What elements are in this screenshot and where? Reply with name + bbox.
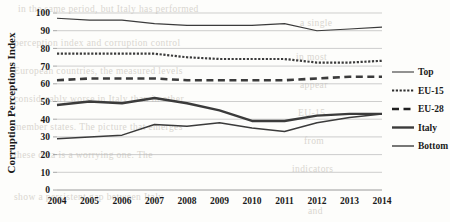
legend-item-eu-28[interactable]: EU-28 [392, 104, 444, 114]
y-tick-label: 100 [36, 8, 51, 18]
y-tick-label: 50 [41, 97, 51, 107]
x-axis-tick-labels: 2004200520062007200820092010201120122013… [48, 196, 392, 206]
legend-label: Italy [418, 123, 437, 133]
y-tick-label: 30 [41, 132, 51, 142]
x-tick-label: 2013 [340, 196, 359, 206]
y-axis-tick-labels: 0102030405060708090100 [36, 8, 51, 195]
legend-item-top[interactable]: Top [392, 67, 434, 77]
y-tick-label: 80 [41, 44, 51, 54]
x-tick-label: 2007 [145, 196, 164, 206]
y-tick-label: 0 [45, 185, 50, 195]
series-line-eu-15 [57, 54, 382, 63]
legend-label: EU-15 [418, 86, 444, 96]
legend-label: Top [418, 67, 434, 77]
axis-tickmarks [53, 13, 57, 190]
legend-label: Bottom [418, 141, 448, 151]
x-tick-label: 2009 [210, 196, 229, 206]
x-tick-label: 2014 [373, 196, 392, 206]
x-tick-label: 2011 [275, 196, 294, 206]
x-tick-label: 2005 [80, 196, 99, 206]
series-line-bottom [57, 114, 382, 139]
x-tick-label: 2010 [243, 196, 262, 206]
y-tick-label: 20 [41, 150, 51, 160]
legend-item-bottom[interactable]: Bottom [392, 141, 448, 151]
legend-item-italy[interactable]: Italy [392, 123, 437, 133]
series-line-eu-28 [57, 77, 382, 81]
y-tick-label: 60 [41, 79, 51, 89]
y-tick-label: 10 [41, 168, 51, 178]
data-series-lines [57, 18, 382, 138]
line-chart: 0102030405060708090100 20042005200620072… [0, 0, 450, 222]
y-tick-label: 40 [41, 115, 51, 125]
y-axis-title: Corruption Perceptions Index [5, 32, 17, 173]
x-tick-label: 2012 [308, 196, 327, 206]
legend-label: EU-28 [418, 104, 444, 114]
x-tick-label: 2006 [113, 196, 132, 206]
y-tick-label: 70 [41, 62, 51, 72]
x-tick-label: 2004 [48, 196, 67, 206]
x-tick-label: 2008 [178, 196, 197, 206]
y-tick-label: 90 [41, 26, 51, 36]
legend-item-eu-15[interactable]: EU-15 [392, 86, 444, 96]
chart-figure: in the same period, but Italy has perfor… [0, 0, 450, 222]
series-line-top [57, 18, 382, 30]
chart-legend: TopEU-15EU-28ItalyBottom [392, 67, 448, 151]
